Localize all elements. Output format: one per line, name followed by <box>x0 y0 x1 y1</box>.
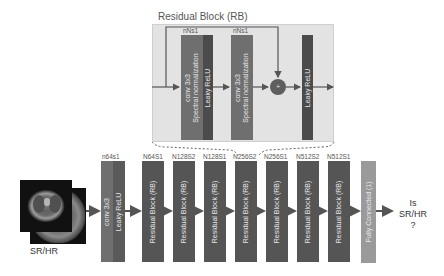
fully-connected-block: Fully Connected (1) <box>361 161 376 263</box>
input-image-front <box>20 180 72 232</box>
chain-rb-block-3: Residual Block (RB) <box>204 161 226 262</box>
rb-conv2-block: conv 3x3Spectral normalization <box>231 35 253 140</box>
chain-rb-text-5: Residual Block (RB) <box>273 180 281 243</box>
chain-rb-block-1: Residual Block (RB) <box>142 161 164 262</box>
rb-final-activation-text: Leaky ReLU <box>304 68 312 107</box>
chain-rb-text-3: Residual Block (RB) <box>211 180 219 243</box>
rb-conv1-activation-block: Leaky ReLU <box>203 35 213 140</box>
chain-rb-block-4: Residual Block (RB) <box>235 161 257 262</box>
input-label: SR/HR <box>30 246 58 256</box>
rb-final-activation-block: Leaky ReLU <box>302 35 313 140</box>
rb-conv2-label: nNs1 <box>233 27 248 34</box>
rb-conv1-text: conv 3x3Spectral normalization <box>184 53 200 122</box>
chain-label-6: N512S2 <box>296 153 320 160</box>
chain-rb-text-1: Residual Block (RB) <box>149 180 157 243</box>
rb-conv1-block: conv 3x3Spectral normalization <box>181 35 203 140</box>
chain-label-0: n64s1 <box>102 153 120 160</box>
sum-node: + <box>270 79 286 95</box>
chain-conv-activation-text: Leaky ReLU <box>115 192 123 231</box>
chain-rb-block-7: Residual Block (RB) <box>328 161 350 262</box>
chain-label-3: N128S1 <box>203 153 227 160</box>
chain-conv-text: conv 3x3 <box>103 197 111 225</box>
chain-rb-block-2: Residual Block (RB) <box>173 161 195 262</box>
chain-conv-activation-block: Leaky ReLU <box>113 161 125 262</box>
chain-rb-text-7: Residual Block (RB) <box>335 180 343 243</box>
rb-conv1-activation-text: Leaky ReLU <box>204 68 212 107</box>
chain-rb-text-6: Residual Block (RB) <box>304 180 312 243</box>
chain-label-1: N64S1 <box>143 153 163 160</box>
rb-conv1-label: nNs1 <box>183 27 198 34</box>
chain-rb-text-4: Residual Block (RB) <box>242 180 250 243</box>
chain-rb-block-6: Residual Block (RB) <box>297 161 319 262</box>
chain-label-2: N128S2 <box>172 153 196 160</box>
fully-connected-text: Fully Connected (1) <box>365 181 373 242</box>
chain-rb-text-2: Residual Block (RB) <box>180 180 188 243</box>
chain-rb-block-5: Residual Block (RB) <box>266 161 288 262</box>
chain-label-7: N512S1 <box>327 153 351 160</box>
chain-label-5: N256S1 <box>264 153 288 160</box>
rb-conv2-text: conv 3x3Spectral normalization <box>234 53 250 122</box>
chain-conv-block: conv 3x3 <box>101 161 113 262</box>
chain-label-4: N256S2 <box>233 153 257 160</box>
output-label: Is SR/HR ? <box>396 198 430 231</box>
